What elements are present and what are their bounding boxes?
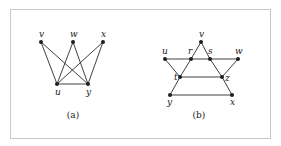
vertex-label: u — [55, 87, 61, 97]
vertex-y — [86, 82, 90, 86]
edge-u-t — [165, 59, 180, 77]
vertex-s — [208, 57, 212, 61]
vertex-label: w — [235, 46, 243, 56]
vertex-t — [178, 75, 182, 79]
graph-a: vwxuy(a) — [39, 29, 106, 120]
vertex-label: v — [39, 29, 44, 39]
figure-frame — [11, 10, 271, 139]
edge-w-u — [57, 42, 73, 84]
vertex-z — [220, 75, 224, 79]
vertex-v — [199, 40, 203, 44]
vertex-label: z — [224, 73, 230, 83]
graph-figure: vwxuy(a) vurswtzyx(b) — [0, 0, 281, 146]
edge-s-z — [210, 59, 222, 77]
vertex-label: x — [230, 97, 235, 107]
edge-r-t — [180, 59, 191, 77]
vertex-label: r — [188, 46, 193, 56]
vertex-label: s — [208, 46, 213, 56]
edge-v-u — [41, 42, 57, 84]
graph-caption: (a) — [67, 110, 79, 120]
vertex-w — [71, 40, 75, 44]
vertex-u — [163, 57, 167, 61]
vertex-u — [55, 82, 59, 86]
vertex-label: v — [199, 29, 204, 39]
vertex-label: y — [85, 87, 92, 97]
vertex-x — [101, 40, 105, 44]
vertex-v — [39, 40, 43, 44]
vertex-label: x — [101, 29, 106, 39]
vertex-r — [189, 57, 193, 61]
vertex-label: y — [166, 97, 173, 107]
vertex-label: t — [174, 72, 178, 82]
graph-b: vurswtzyx(b) — [162, 29, 243, 120]
vertex-label: u — [162, 46, 168, 56]
vertex-w — [236, 57, 240, 61]
edge-v-r — [191, 42, 201, 59]
vertex-label: w — [70, 29, 78, 39]
graph-caption: (b) — [193, 110, 206, 120]
